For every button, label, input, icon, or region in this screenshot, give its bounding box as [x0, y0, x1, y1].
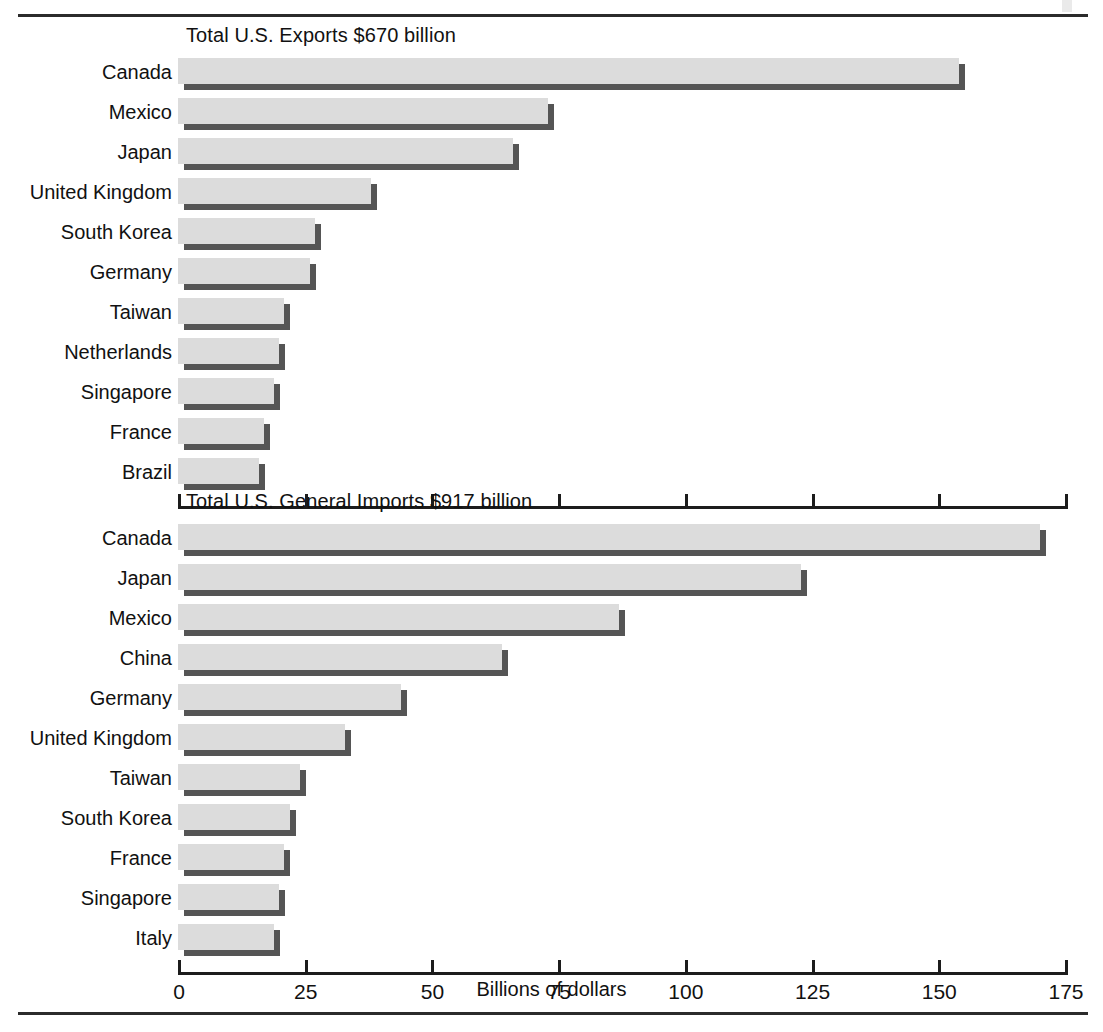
- bar-container: [178, 524, 1040, 556]
- imports-chart-title: Total U.S. General Imports $917 billion: [186, 490, 532, 513]
- bar: [178, 604, 619, 630]
- bar-row: Taiwan: [0, 294, 1103, 334]
- axis-tick: [938, 960, 941, 975]
- bar-row: United Kingdom: [0, 174, 1103, 214]
- category-label: United Kingdom: [30, 727, 172, 750]
- category-label: Japan: [118, 141, 173, 164]
- category-label: Canada: [102, 61, 172, 84]
- category-label: South Korea: [61, 221, 172, 244]
- bar: [178, 458, 259, 484]
- bar: [178, 418, 264, 444]
- bar: [178, 684, 401, 710]
- chart-page: Total U.S. Exports $670 billion CanadaMe…: [0, 0, 1103, 1032]
- bar-row: Brazil: [0, 454, 1103, 494]
- bar: [178, 804, 290, 830]
- bar-row: Japan: [0, 134, 1103, 174]
- category-label: Canada: [102, 527, 172, 550]
- category-label: Germany: [90, 687, 172, 710]
- axis-tick: [685, 960, 688, 975]
- bar-container: [178, 58, 959, 90]
- bar-container: [178, 764, 300, 796]
- bar: [178, 298, 284, 324]
- bar: [178, 724, 345, 750]
- page-rule-top: [18, 14, 1088, 17]
- axis-tick: [431, 960, 434, 975]
- bar-container: [178, 378, 274, 410]
- category-label: Mexico: [109, 607, 172, 630]
- bar-container: [178, 924, 274, 956]
- bar: [178, 258, 310, 284]
- bar-container: [178, 804, 290, 836]
- bar-row: Mexico: [0, 600, 1103, 640]
- bar-container: [178, 684, 401, 716]
- category-label: Singapore: [81, 381, 172, 404]
- axis-tick: [178, 960, 181, 975]
- page-rule-bottom: [18, 1012, 1088, 1015]
- bar: [178, 338, 279, 364]
- bar-row: France: [0, 840, 1103, 880]
- category-label: Taiwan: [110, 767, 172, 790]
- bar-row: South Korea: [0, 214, 1103, 254]
- bar-container: [178, 178, 371, 210]
- bar: [178, 98, 548, 124]
- category-label: Japan: [118, 567, 173, 590]
- bar-container: [178, 644, 502, 676]
- bar-row: Germany: [0, 254, 1103, 294]
- bar-row: South Korea: [0, 800, 1103, 840]
- exports-chart-title: Total U.S. Exports $670 billion: [186, 24, 456, 47]
- bar-row: Germany: [0, 680, 1103, 720]
- category-label: China: [120, 647, 172, 670]
- bar: [178, 564, 801, 590]
- axis-tick: [1065, 960, 1068, 975]
- category-label: Singapore: [81, 887, 172, 910]
- bar: [178, 844, 284, 870]
- bar-row: Italy: [0, 920, 1103, 960]
- bar-row: Singapore: [0, 880, 1103, 920]
- exports-chart: Total U.S. Exports $670 billion CanadaMe…: [0, 24, 1103, 479]
- bar-row: United Kingdom: [0, 720, 1103, 760]
- bar: [178, 378, 274, 404]
- bar: [178, 524, 1040, 550]
- axis-tick: [812, 960, 815, 975]
- bar: [178, 884, 279, 910]
- bar-container: [178, 138, 513, 170]
- imports-chart: Total U.S. General Imports $917 billion …: [0, 490, 1103, 960]
- bar-container: [178, 298, 284, 330]
- bar: [178, 924, 274, 950]
- bar: [178, 764, 300, 790]
- bar-container: [178, 604, 619, 636]
- bar-row: Mexico: [0, 94, 1103, 134]
- bar-container: [178, 724, 345, 756]
- category-label: South Korea: [61, 807, 172, 830]
- axis-tick: [558, 960, 561, 975]
- category-label: Brazil: [122, 461, 172, 484]
- category-label: Netherlands: [64, 341, 172, 364]
- category-label: France: [110, 847, 172, 870]
- bar: [178, 178, 371, 204]
- bar: [178, 218, 315, 244]
- exports-plot-area: CanadaMexicoJapanUnited KingdomSouth Kor…: [0, 54, 1103, 494]
- bar-container: [178, 844, 284, 876]
- bar-row: Taiwan: [0, 760, 1103, 800]
- imports-plot-area: CanadaJapanMexicoChinaGermanyUnited King…: [0, 520, 1103, 960]
- bar-row: Canada: [0, 54, 1103, 94]
- bar-row: Netherlands: [0, 334, 1103, 374]
- bar-container: [178, 98, 548, 130]
- bar-row: China: [0, 640, 1103, 680]
- category-label: Taiwan: [110, 301, 172, 324]
- bar-container: [178, 258, 310, 290]
- category-label: France: [110, 421, 172, 444]
- bar: [178, 644, 502, 670]
- imports-axis: 0255075100125150175: [178, 960, 1065, 961]
- axis-tick: [305, 960, 308, 975]
- bar-container: [178, 338, 279, 370]
- bar-container: [178, 218, 315, 250]
- bar-row: Japan: [0, 560, 1103, 600]
- imports-axis-line: [178, 972, 1065, 975]
- category-label: Germany: [90, 261, 172, 284]
- category-label: United Kingdom: [30, 181, 172, 204]
- bar-container: [178, 418, 264, 450]
- bar-row: France: [0, 414, 1103, 454]
- bar: [178, 138, 513, 164]
- bar-container: [178, 884, 279, 916]
